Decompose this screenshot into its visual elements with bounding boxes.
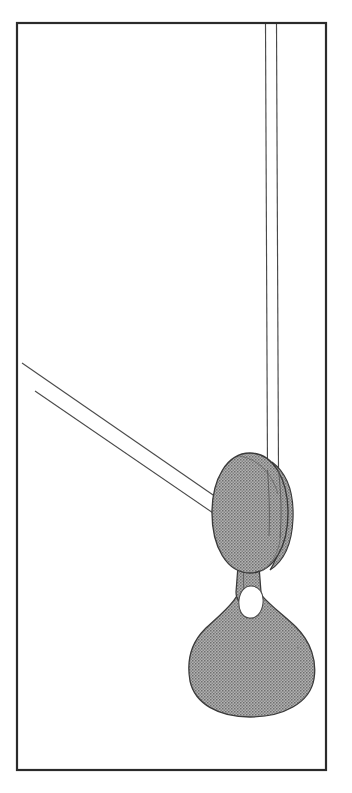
figure-illustration bbox=[0, 0, 352, 793]
upper-bulb-ellipse bbox=[212, 453, 288, 573]
neck-highlight-oval bbox=[239, 586, 263, 618]
scan-speck bbox=[297, 647, 299, 649]
figure-root bbox=[0, 0, 352, 793]
